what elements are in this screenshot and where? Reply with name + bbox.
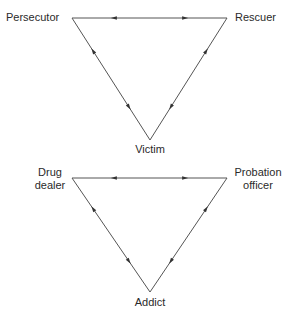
edge-left-bottom — [72, 18, 150, 140]
edge-right-bottom — [150, 18, 227, 140]
node-probation-officer: Probation officer — [228, 166, 288, 192]
node-victim: Victim — [125, 143, 175, 156]
arrowhead-to-left — [91, 48, 96, 54]
diagram-canvas — [0, 0, 290, 326]
addiction-triangle — [72, 176, 227, 292]
node-addict: Addict — [125, 296, 175, 309]
drama-triangle — [72, 16, 227, 140]
node-rescuer: Rescuer — [235, 11, 276, 24]
node-drug-dealer-line1: Drug — [30, 166, 70, 179]
arrowhead-to-right — [182, 16, 188, 20]
node-persecutor: Persecutor — [6, 11, 59, 24]
arrowhead-to-left — [111, 16, 117, 20]
node-probation-officer-line1: Probation — [228, 166, 288, 179]
arrowhead-to-right — [203, 206, 208, 212]
arrowhead-to-right — [203, 48, 208, 54]
edge-right-bottom — [150, 178, 227, 292]
edge-left-bottom — [72, 178, 150, 292]
arrowhead-to-bottom — [169, 104, 174, 110]
arrowhead-to-bottom — [126, 258, 131, 264]
arrowhead-to-left — [91, 206, 96, 212]
arrowhead-to-bottom — [169, 258, 174, 264]
arrowhead-to-bottom — [126, 104, 131, 110]
arrowhead-to-right — [182, 176, 188, 180]
arrowhead-to-left — [111, 176, 117, 180]
node-drug-dealer: Drug dealer — [30, 166, 70, 192]
node-drug-dealer-line2: dealer — [30, 179, 70, 192]
node-probation-officer-line2: officer — [228, 179, 288, 192]
